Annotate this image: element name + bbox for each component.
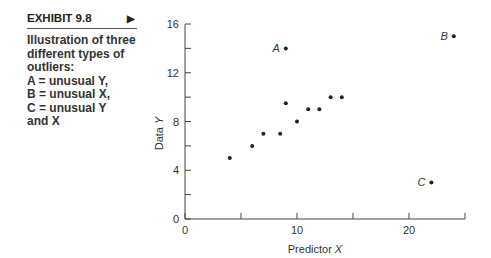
y-axis-label: Data Y [153, 116, 165, 150]
data-point [295, 120, 299, 124]
point-label: B [440, 30, 447, 42]
outlier-point-b [452, 34, 456, 38]
data-point [317, 107, 321, 111]
y-tick-label: 12 [167, 67, 179, 79]
scatter-chart: 048121601020Predictor XData YABC [0, 0, 491, 258]
point-label: C [417, 176, 425, 188]
data-point [340, 95, 344, 99]
y-tick-label: 4 [173, 164, 179, 176]
data-point [261, 132, 265, 136]
x-tick-label: 20 [403, 224, 415, 236]
x-axis-label: Predictor X [288, 243, 343, 255]
data-point [306, 107, 310, 111]
outlier-point-c [429, 180, 433, 184]
x-tick-label: 0 [182, 224, 188, 236]
data-point [228, 156, 232, 160]
data-point [284, 101, 288, 105]
y-tick-label: 8 [173, 116, 179, 128]
outlier-point-a [284, 46, 288, 50]
data-point [329, 95, 333, 99]
point-label: A [271, 42, 279, 54]
x-tick-label: 10 [291, 224, 303, 236]
data-point [250, 144, 254, 148]
data-point [278, 132, 282, 136]
y-tick-label: 0 [173, 213, 179, 225]
y-tick-label: 16 [167, 18, 179, 30]
